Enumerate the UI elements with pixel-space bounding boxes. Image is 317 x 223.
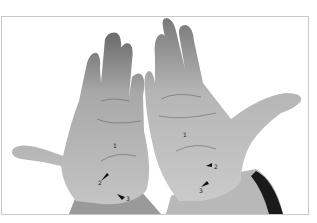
photo-frame: 1 2 3 1 2 3: [1, 16, 309, 215]
right-hand-label-3: 3: [199, 188, 203, 194]
right-hand: [145, 18, 302, 201]
left-hand-label-2: 2: [98, 180, 102, 186]
left-hand-label-3: 3: [126, 196, 130, 202]
left-hand: [12, 33, 149, 205]
hands-photo: [2, 17, 308, 214]
left-hand-label-1: 1: [113, 143, 117, 149]
right-hand-label-2: 2: [214, 164, 218, 170]
right-hand-label-1: 1: [183, 132, 187, 138]
